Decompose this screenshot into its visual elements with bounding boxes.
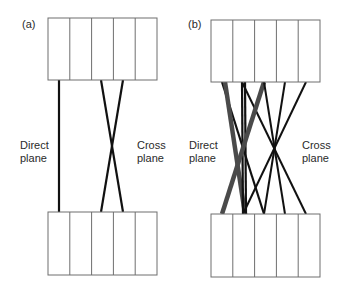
panel-b-top-array-outline — [211, 20, 320, 82]
plane-connection-diagram: (a) Direct plane Cross plane (b) Direct … — [0, 0, 337, 289]
panel-a-direct-label-line1: Direct — [20, 139, 49, 151]
panel-a-top-array — [48, 18, 157, 80]
panel-b: (b) Direct plane Cross plane — [188, 18, 331, 277]
panel-b-direct-label-line1: Direct — [189, 139, 218, 151]
panel-a-bottom-array-outline — [48, 212, 157, 275]
panel-b-connections — [222, 82, 306, 214]
panel-a-connections — [59, 80, 123, 212]
panel-b-cross-label-line2: plane — [302, 152, 329, 164]
panel-a-cross-label-line1: Cross — [137, 139, 166, 151]
panel-a-direct-label-line2: plane — [20, 152, 47, 164]
panel-a-top-array-outline — [48, 18, 157, 80]
panel-a: (a) Direct plane Cross plane — [20, 18, 166, 275]
panel-b-bottom-array-outline — [211, 214, 320, 277]
panel-a-bottom-array — [48, 212, 157, 275]
panel-b-label: (b) — [188, 18, 201, 30]
panel-a-label: (a) — [22, 18, 35, 30]
panel-b-cross-label-line1: Cross — [302, 139, 331, 151]
panel-b-bottom-array — [211, 214, 320, 277]
panel-b-top-array — [211, 20, 320, 82]
panel-b-direct-label-line2: plane — [189, 152, 216, 164]
panel-a-cross-label-line2: plane — [137, 152, 164, 164]
